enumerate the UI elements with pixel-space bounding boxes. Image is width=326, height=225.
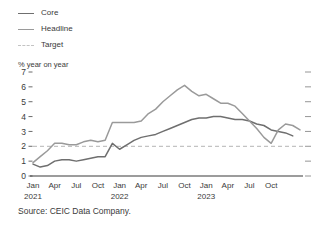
x-tick-label: Jul — [71, 181, 81, 190]
x-tick-label: Apr — [48, 181, 61, 190]
x-tick-label: Jan — [27, 181, 40, 190]
y-tick-label: 7 — [21, 67, 26, 77]
y-tick-label: 5 — [21, 97, 26, 107]
x-tick-label: Jan — [113, 181, 126, 190]
chart-svg: 01234567 JanAprJulOctJanAprJulOctJanAprJ… — [0, 0, 326, 225]
x-tick-label: Oct — [178, 181, 191, 190]
series-line-core — [33, 117, 293, 168]
x-tick-label: Apr — [222, 181, 235, 190]
x-axis-tick-labels: JanAprJulOctJanAprJulOctJanAprJulOct — [27, 181, 279, 190]
series-lines — [33, 85, 300, 167]
y-tick-label: 0 — [21, 171, 26, 181]
y-tick-label: 6 — [21, 82, 26, 92]
x-tick-label: Jul — [158, 181, 168, 190]
x-axis-year-label: 2023 — [197, 192, 215, 201]
x-tick-label: Oct — [92, 181, 105, 190]
y-tick-label: 3 — [21, 127, 26, 137]
x-tick-label: Jul — [244, 181, 254, 190]
x-tick-label: Apr — [135, 181, 148, 190]
x-axis-year-label: 2021 — [24, 192, 42, 201]
chart-plot-area: 01234567 JanAprJulOctJanAprJulOctJanAprJ… — [0, 0, 326, 225]
y-tick-label: 1 — [21, 156, 26, 166]
x-tick-label: Oct — [265, 181, 278, 190]
x-axis-year-labels: 202120222023 — [24, 192, 216, 201]
chart-root: Core Headline Target % year on year 0123… — [0, 0, 326, 225]
y-axis-ticks: 01234567 — [21, 67, 32, 181]
x-axis-year-label: 2022 — [111, 192, 129, 201]
x-tick-label: Jan — [200, 181, 213, 190]
y-axis-ticks-right — [305, 72, 311, 176]
source-note: Source: CEIC Data Company. — [18, 206, 131, 216]
y-tick-label: 2 — [21, 141, 26, 151]
y-tick-label: 4 — [21, 112, 26, 122]
